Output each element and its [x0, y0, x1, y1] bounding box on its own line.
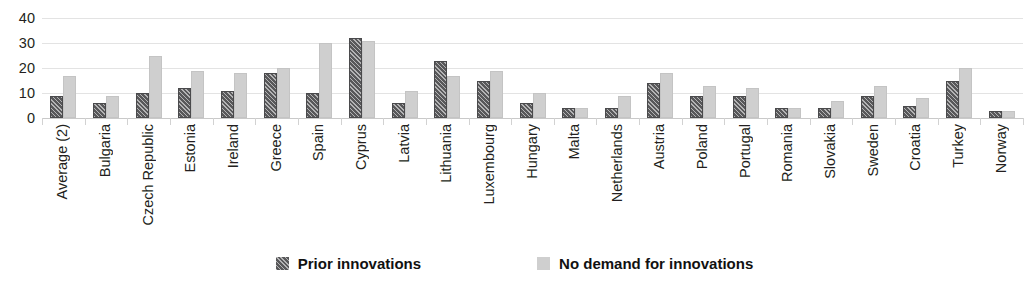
x-label-lithuania: Lithuania	[439, 124, 454, 183]
bar-no-demand-for-innovations	[959, 68, 972, 118]
y-tick-label-30: 30	[19, 36, 35, 51]
bar-prior-innovations	[434, 61, 447, 119]
x-label-estonia: Estonia	[183, 124, 198, 172]
bar-prior-innovations	[520, 103, 533, 118]
bar-prior-innovations	[989, 111, 1002, 119]
bar-prior-innovations	[605, 108, 618, 118]
bar-no-demand-for-innovations	[746, 88, 759, 118]
bar-group	[861, 18, 887, 118]
bar-no-demand-for-innovations	[533, 93, 546, 118]
x-label-latvia: Latvia	[397, 124, 412, 163]
bar-no-demand-for-innovations	[191, 71, 204, 119]
bar-group	[946, 18, 972, 118]
y-tick-label-20: 20	[19, 61, 35, 76]
bar-chart: 010203040 Average (2)BulgariaCzech Repub…	[0, 0, 1029, 289]
bar-group	[775, 18, 801, 118]
legend-item[interactable]: Prior innovations	[276, 255, 421, 272]
x-label-luxembourg: Luxembourg	[482, 124, 497, 205]
bar-prior-innovations	[477, 81, 490, 119]
bar-prior-innovations	[221, 91, 234, 119]
x-label-cyprus: Cyprus	[354, 124, 369, 170]
x-label-croatia: Croatia	[908, 124, 923, 171]
x-label-norway: Norway	[994, 124, 1009, 173]
bar-prior-innovations	[392, 103, 405, 118]
legend-label: No demand for innovations	[559, 255, 753, 272]
bar-prior-innovations	[264, 73, 277, 118]
dark-hatched-swatch	[276, 257, 289, 270]
bar-group	[50, 18, 76, 118]
x-label-netherlands: Netherlands	[610, 124, 625, 202]
y-axis: 010203040	[0, 0, 42, 140]
bar-group	[349, 18, 375, 118]
y-tick-label-0: 0	[27, 111, 35, 126]
bar-no-demand-for-innovations	[362, 41, 375, 119]
bar-group	[434, 18, 460, 118]
bar-group	[178, 18, 204, 118]
bar-prior-innovations	[647, 83, 660, 118]
bar-no-demand-for-innovations	[319, 43, 332, 118]
bar-prior-innovations	[136, 93, 149, 118]
x-label-poland: Poland	[695, 124, 710, 169]
chart-legend: Prior innovationsNo demand for innovatio…	[0, 250, 1029, 276]
x-label-hungary: Hungary	[525, 124, 540, 179]
legend-label: Prior innovations	[298, 255, 421, 272]
bar-no-demand-for-innovations	[916, 98, 929, 118]
bar-group	[989, 18, 1015, 118]
bar-prior-innovations	[690, 96, 703, 119]
bar-group	[605, 18, 631, 118]
bar-no-demand-for-innovations	[703, 86, 716, 119]
bar-prior-innovations	[349, 38, 362, 118]
x-label-greece: Greece	[269, 124, 284, 172]
bar-no-demand-for-innovations	[618, 96, 631, 119]
light-gray-swatch	[537, 257, 550, 270]
bar-group	[818, 18, 844, 118]
bar-no-demand-for-innovations	[149, 56, 162, 119]
bar-group	[733, 18, 759, 118]
bar-prior-innovations	[903, 106, 916, 119]
legend-item[interactable]: No demand for innovations	[537, 255, 753, 272]
bar-no-demand-for-innovations	[660, 73, 673, 118]
bar-no-demand-for-innovations	[490, 71, 503, 119]
bar-group	[136, 18, 162, 118]
bar-no-demand-for-innovations	[1002, 111, 1015, 119]
bar-prior-innovations	[818, 108, 831, 118]
bar-group	[221, 18, 247, 118]
bar-no-demand-for-innovations	[831, 101, 844, 119]
bar-group	[647, 18, 673, 118]
x-label-bulgaria: Bulgaria	[98, 124, 113, 177]
bar-prior-innovations	[861, 96, 874, 119]
x-label-spain: Spain	[311, 124, 326, 161]
x-label-czech-republic: Czech Republic	[141, 124, 156, 226]
bar-group	[690, 18, 716, 118]
bar-no-demand-for-innovations	[447, 76, 460, 119]
gridline-0	[42, 118, 1023, 119]
x-label-malta: Malta	[567, 124, 582, 159]
bar-no-demand-for-innovations	[874, 86, 887, 119]
bar-prior-innovations	[733, 96, 746, 119]
bar-prior-innovations	[93, 103, 106, 118]
bar-group	[392, 18, 418, 118]
y-tick-label-40: 40	[19, 11, 35, 26]
bar-no-demand-for-innovations	[405, 91, 418, 119]
x-label-romania: Romania	[780, 124, 795, 182]
bar-no-demand-for-innovations	[788, 108, 801, 118]
bar-no-demand-for-innovations	[277, 68, 290, 118]
bar-group	[306, 18, 332, 118]
bar-group	[477, 18, 503, 118]
bar-group	[520, 18, 546, 118]
bar-group	[903, 18, 929, 118]
bar-no-demand-for-innovations	[106, 96, 119, 119]
bar-prior-innovations	[306, 93, 319, 118]
x-label-average-2: Average (2)	[55, 124, 70, 200]
x-label-austria: Austria	[652, 124, 667, 169]
bar-no-demand-for-innovations	[234, 73, 247, 118]
bar-prior-innovations	[50, 96, 63, 119]
x-label-turkey: Turkey	[951, 124, 966, 168]
bar-prior-innovations	[178, 88, 191, 118]
x-label-slovakia: Slovakia	[823, 124, 838, 179]
bar-no-demand-for-innovations	[63, 76, 76, 119]
bar-prior-innovations	[775, 108, 788, 118]
x-label-ireland: Ireland	[226, 124, 241, 168]
x-axis-labels: Average (2)BulgariaCzech RepublicEstonia…	[42, 124, 1023, 236]
x-label-portugal: Portugal	[738, 124, 753, 178]
